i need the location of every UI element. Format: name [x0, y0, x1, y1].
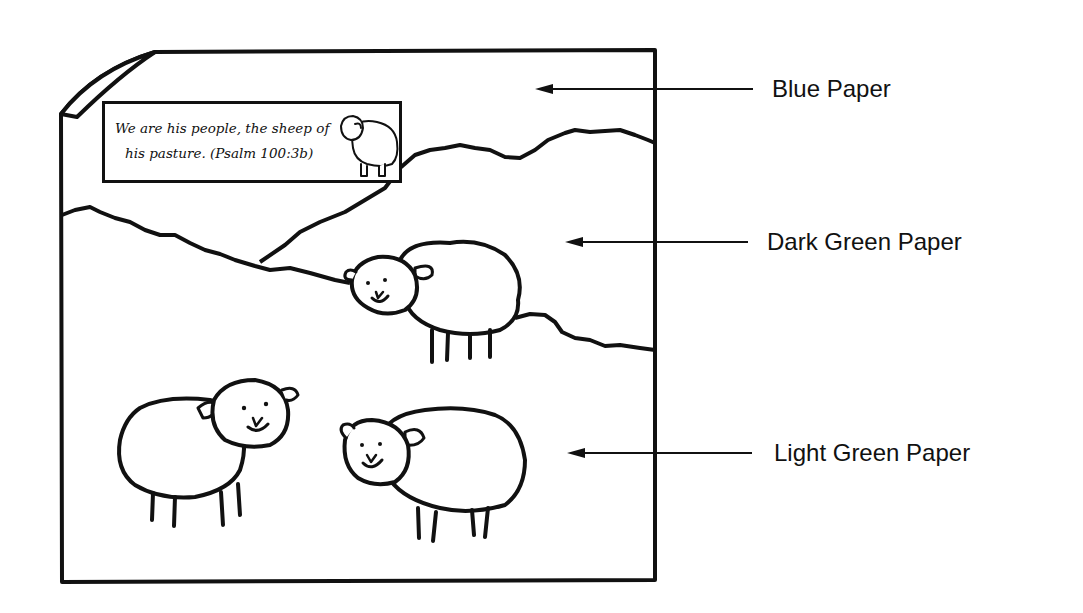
sheep-icon — [341, 408, 525, 541]
label-blue-paper: Blue Paper — [772, 77, 891, 101]
sheep-icon — [345, 242, 520, 362]
small-sheep-icon — [337, 112, 403, 180]
front-hill-line-right — [515, 314, 655, 350]
label-dark-green-paper: Dark Green Paper — [767, 230, 962, 254]
arrow-head-icon — [565, 237, 583, 247]
label-light-green-paper: Light Green Paper — [774, 441, 970, 465]
verse-label-box: We are his people, the sheep of his past… — [102, 101, 402, 183]
arrow-head-icon — [567, 448, 585, 458]
verse-text: We are his people, the sheep of his past… — [115, 116, 329, 166]
collage-diagram — [0, 0, 1083, 613]
arrow-head-icon — [535, 84, 553, 94]
front-hill-line — [62, 207, 350, 283]
verse-line-1: We are his people, the sheep of — [115, 116, 329, 141]
verse-line-2: his pasture. (Psalm 100:3b) — [115, 141, 329, 166]
sheep-icon — [119, 380, 298, 526]
